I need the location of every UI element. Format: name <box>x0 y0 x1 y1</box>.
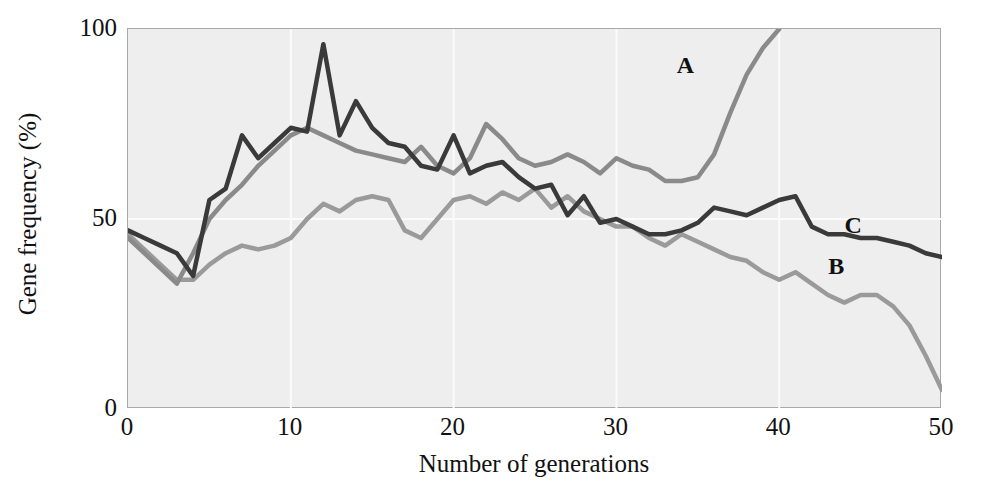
series-label-b: B <box>828 254 844 278</box>
x-tick-label: 20 <box>440 414 465 439</box>
x-tick-label: 50 <box>929 414 954 439</box>
gridlines <box>128 29 942 409</box>
plot-area: A B C <box>127 28 941 408</box>
y-tick-label: 50 <box>92 205 117 230</box>
y-axis-title: Gene frequency (%) <box>14 84 42 344</box>
x-tick-label: 40 <box>766 414 791 439</box>
x-axis-ticks: 01020304050 <box>0 414 996 448</box>
x-axis-title: Number of generations <box>127 450 941 478</box>
x-tick-label: 0 <box>121 414 134 439</box>
y-axis-ticks: 050100 <box>55 0 117 440</box>
x-tick-label: 30 <box>603 414 628 439</box>
series-label-c: C <box>844 213 861 237</box>
series-label-a: A <box>677 53 694 77</box>
chart-figure: A B C 050100 01020304050 Gene frequency … <box>0 0 996 500</box>
series-line-c <box>128 44 942 276</box>
series-paths <box>128 29 942 390</box>
y-tick-label: 100 <box>80 15 118 40</box>
x-tick-label: 10 <box>277 414 302 439</box>
plot-svg <box>128 29 942 409</box>
